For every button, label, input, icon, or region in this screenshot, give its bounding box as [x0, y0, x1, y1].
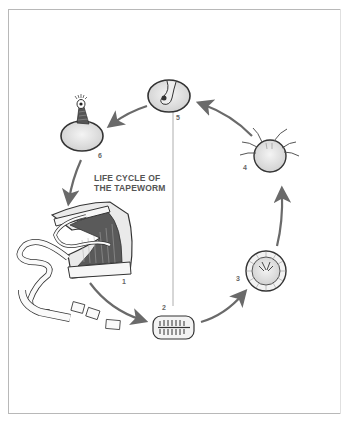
arrow-3-to-4 [277, 192, 282, 246]
stage-1-adult-tapeworm [20, 202, 133, 330]
stage-5-cysticercus [148, 80, 190, 112]
stage-4-hooked-embryo [240, 128, 299, 172]
stage-label-2: 2 [162, 304, 166, 311]
title-line-2: THE TAPEWORM [94, 184, 166, 194]
stage-label-1: 1 [122, 278, 126, 285]
arrow-4-to-5 [202, 104, 252, 136]
stage-3-egg [246, 251, 286, 291]
arrow-5-to-6 [112, 106, 147, 124]
stage-6-scolex [61, 94, 103, 151]
tapeworm-life-cycle-diagram [0, 0, 341, 421]
stage-label-3: 3 [236, 275, 240, 282]
arrow-6-to-1 [69, 160, 81, 200]
stage-label-4: 4 [243, 164, 247, 171]
stage-label-5: 5 [176, 114, 180, 121]
arrow-2-to-3 [201, 294, 243, 322]
stage-label-6: 6 [98, 152, 102, 159]
diagram-title: LIFE CYCLE OF THE TAPEWORM [94, 174, 166, 193]
stage-2-proglottid [153, 316, 194, 339]
